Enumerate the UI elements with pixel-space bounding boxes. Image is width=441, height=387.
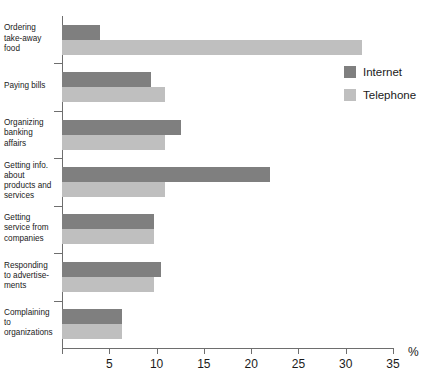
- category-label-line: to: [4, 318, 60, 328]
- bar-chart: 5101520253035 % Orderingtake-awayfoodPay…: [0, 0, 441, 387]
- x-axis-tick: [298, 348, 299, 354]
- legend-label-internet: Internet: [363, 66, 402, 78]
- bar-internet: [62, 309, 122, 324]
- category-label-line: organizations: [4, 328, 60, 338]
- bar-telephone: [62, 40, 362, 55]
- x-axis-line: [62, 348, 394, 349]
- x-axis-tick-label: 25: [292, 357, 305, 371]
- bar-internet: [62, 120, 181, 135]
- x-axis-tick: [204, 348, 205, 354]
- x-axis-tick-label: 20: [244, 357, 257, 371]
- legend-label-telephone: Telephone: [363, 89, 416, 101]
- y-axis-tick: [54, 253, 62, 254]
- x-axis-tick-label: 10: [150, 357, 163, 371]
- category-label-line: to advertise-: [4, 271, 60, 281]
- y-axis-tick: [54, 206, 62, 207]
- category-label-line: ments: [4, 281, 60, 291]
- category-label: Orderingtake-awayfood: [4, 23, 60, 54]
- category-label: Complainingtoorganizations: [4, 308, 60, 339]
- category-label-line: Ordering: [4, 23, 60, 33]
- category-label: Organizingbankingaffairs: [4, 118, 60, 149]
- bar-internet: [62, 214, 154, 229]
- category-label-line: companies: [4, 234, 60, 244]
- x-axis-tick: [393, 348, 394, 354]
- category-label-line: service from: [4, 223, 60, 233]
- bar-internet: [62, 25, 100, 40]
- x-axis-unit-label: %: [408, 345, 419, 359]
- x-axis-tick-label: 35: [386, 357, 399, 371]
- category-label-line: Complaining: [4, 308, 60, 318]
- bar-telephone: [62, 229, 154, 244]
- bar-telephone: [62, 87, 165, 102]
- y-axis-tick: [54, 111, 62, 112]
- bar-telephone: [62, 182, 165, 197]
- x-axis-tick-label: 5: [106, 357, 113, 371]
- x-axis-tick-label: 30: [339, 357, 352, 371]
- bar-internet: [62, 167, 270, 182]
- category-label-line: affairs: [4, 139, 60, 149]
- category-label-line: banking: [4, 128, 60, 138]
- y-axis-tick: [54, 301, 62, 302]
- x-axis-tick: [346, 348, 347, 354]
- category-label-line: Getting: [4, 213, 60, 223]
- category-label: Getting info.aboutproducts andservices: [4, 161, 60, 202]
- category-label-line: services: [4, 191, 60, 201]
- x-axis-tick: [157, 348, 158, 354]
- x-axis-tick: [62, 348, 63, 354]
- legend-swatch-internet-icon: [344, 66, 356, 78]
- category-label-line: food: [4, 44, 60, 54]
- bar-telephone: [62, 324, 122, 339]
- category-label-line: Paying bills: [4, 81, 60, 91]
- legend-swatch-telephone-icon: [344, 89, 356, 101]
- category-label: Gettingservice fromcompanies: [4, 213, 60, 244]
- bar-telephone: [62, 135, 165, 150]
- bar-internet: [62, 72, 151, 87]
- bar-telephone: [62, 277, 154, 292]
- bar-internet: [62, 262, 161, 277]
- category-label-line: Responding: [4, 261, 60, 271]
- category-label: Respondingto advertise-ments: [4, 261, 60, 292]
- legend: Internet Telephone: [344, 66, 440, 112]
- legend-item-telephone[interactable]: Telephone: [344, 89, 440, 101]
- x-axis-tick-label: 15: [197, 357, 210, 371]
- legend-item-internet[interactable]: Internet: [344, 66, 440, 78]
- x-axis-tick: [251, 348, 252, 354]
- category-label-line: products and: [4, 181, 60, 191]
- x-axis-tick: [109, 348, 110, 354]
- category-label-line: take-away: [4, 34, 60, 44]
- category-label-line: Getting info.: [4, 161, 60, 171]
- y-axis-tick: [54, 158, 62, 159]
- category-label: Paying bills: [4, 81, 60, 91]
- category-label-line: about: [4, 171, 60, 181]
- category-label-line: Organizing: [4, 118, 60, 128]
- y-axis-tick: [54, 63, 62, 64]
